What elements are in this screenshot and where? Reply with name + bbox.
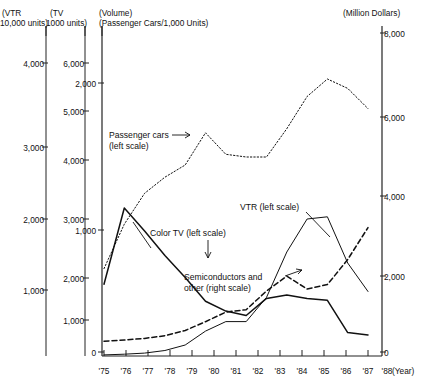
series-line-passenger-cars [104,79,368,269]
series-line-semiconductors-and-other [104,228,368,342]
axis-tv-ticks [83,63,89,320]
leader-vtr [306,212,330,237]
leader-passenger-cars [172,132,190,138]
leader-color-tv [205,240,211,258]
leader-semiconductors [285,269,302,276]
axis-vtr-ticks [42,63,48,290]
chart-figure [0,0,421,380]
axis-dollars-ticks [380,33,386,352]
series-line-color-tv [104,208,368,335]
series-layer [104,79,368,355]
axis-cars-ticks [98,83,104,352]
